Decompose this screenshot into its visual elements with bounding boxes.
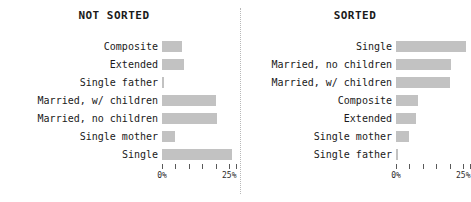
bar-category-label: Single [356,41,396,53]
axis-tick [450,164,451,169]
bar-sorted-0 [396,41,466,52]
bar-row: Single mother [162,128,236,146]
axis-tick [229,164,230,169]
bar-category-label: Married, no children [38,113,162,125]
panel-not-sorted: NOT SORTED CompositeExtendedSingle fathe… [0,0,240,202]
bar-row: Extended [162,56,236,74]
bar-row: Single father [162,74,236,92]
plot-area-sorted: SingleMarried, no childrenMarried, w/ ch… [396,38,470,164]
bar-not-sorted-2 [162,77,164,88]
x-axis-sorted: 0%25% [396,164,470,186]
bar-sorted-2 [396,77,450,88]
axis-tick [216,164,217,169]
panel-title-sorted: SORTED [240,9,470,22]
bar-category-label: Single father [314,149,396,161]
bar-row: Composite [162,38,236,56]
bar-category-label: Composite [104,41,162,53]
bar-row: Married, no children [396,56,470,74]
bar-row: Extended [396,110,470,128]
bar-category-label: Single mother [314,131,396,143]
bar-chart-sorted: SingleMarried, no childrenMarried, w/ ch… [244,38,470,164]
plot-area-not-sorted: CompositeExtendedSingle fatherMarried, w… [162,38,236,164]
bar-category-label: Single [122,149,162,161]
bar-category-label: Married, w/ children [38,95,162,107]
bar-row: Single [396,38,470,56]
bar-sorted-1 [396,59,451,70]
bar-category-label: Married, no children [272,59,396,71]
bar-not-sorted-0 [162,41,182,52]
bar-not-sorted-3 [162,95,216,106]
bar-sorted-3 [396,95,418,106]
axis-tick [175,164,176,169]
bar-sorted-5 [396,131,409,142]
axis-tick [162,164,163,169]
axis-tick-label: 25% [222,171,236,181]
bar-not-sorted-6 [162,149,232,160]
bar-not-sorted-4 [162,113,217,124]
bar-category-label: Single father [80,77,162,89]
axis-tick [202,164,203,169]
axis-tick-label: 0% [157,171,167,181]
axis-tick-label: 0% [391,171,401,181]
bar-not-sorted-5 [162,131,175,142]
axis-tick [409,164,410,169]
bar-category-label: Composite [338,95,396,107]
bar-row: Married, w/ children [162,92,236,110]
bar-row: Single mother [396,128,470,146]
bar-row: Married, no children [162,110,236,128]
panel-sorted: SORTED SingleMarried, no childrenMarried… [240,0,470,202]
bar-row: Single father [396,146,470,164]
bar-chart-not-sorted: CompositeExtendedSingle fatherMarried, w… [0,38,236,164]
axis-tick [436,164,437,169]
bar-sorted-6 [396,149,398,160]
axis-tick [423,164,424,169]
axis-tick-label: 25% [456,171,470,181]
bar-row: Married, w/ children [396,74,470,92]
bar-category-label: Extended [344,113,396,125]
bar-not-sorted-1 [162,59,184,70]
bar-row: Composite [396,92,470,110]
axis-tick [396,164,397,169]
axis-tick [189,164,190,169]
bar-row: Single [162,146,236,164]
axis-tick [236,164,237,169]
bar-category-label: Married, w/ children [272,77,396,89]
bar-category-label: Extended [110,59,162,71]
x-axis-not-sorted: 0%25% [162,164,236,186]
bar-category-label: Single mother [80,131,162,143]
axis-tick [463,164,464,169]
panel-title-not-sorted: NOT SORTED [0,9,234,22]
bar-sorted-4 [396,113,416,124]
